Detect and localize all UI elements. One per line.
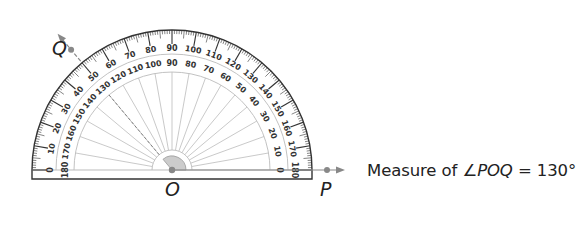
point-o-dot xyxy=(169,167,175,173)
angle-symbol: ∠ xyxy=(462,161,477,180)
arrow-p-icon xyxy=(336,167,345,174)
point-p-label: P xyxy=(320,178,331,200)
caption-prefix: Measure of xyxy=(367,161,462,180)
angle-value: 130° xyxy=(537,161,576,180)
scale-label: 90 xyxy=(166,44,178,53)
caption-equals: = xyxy=(513,161,537,180)
protractor: 0102030405060708090100110120130140150160… xyxy=(32,30,312,179)
point-q-dot xyxy=(68,47,74,53)
point-q-label: Q xyxy=(52,37,67,59)
scale-label: 90 xyxy=(166,59,178,68)
angle-measure-caption: Measure of ∠POQ = 130° xyxy=(367,161,576,180)
point-o-label: O xyxy=(165,178,180,200)
angle-name: POQ xyxy=(477,161,513,180)
scale-label: 0 xyxy=(46,167,55,173)
scale-label: 180 xyxy=(61,161,70,178)
point-p-dot xyxy=(324,167,330,173)
